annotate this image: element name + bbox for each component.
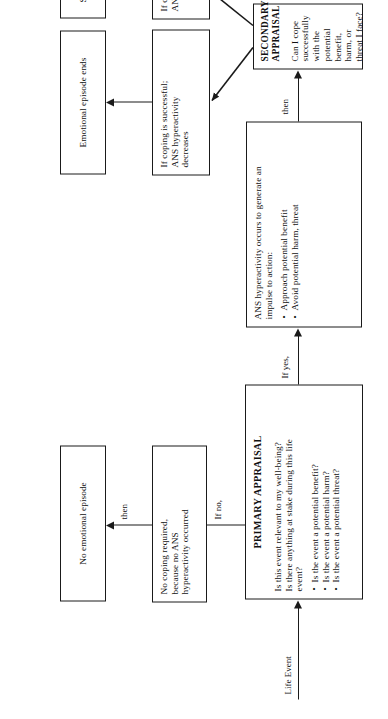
edge-label-then-2: then	[280, 98, 290, 116]
edge-label-life-event: Life Event	[283, 655, 293, 695]
edge-episode-ends-line	[113, 101, 153, 102]
edge-if-yes-arrowhead	[294, 328, 302, 336]
node-primary-appraisal[interactable]: PRIMARY APPRAISAL Is this event relevant…	[245, 384, 363, 599]
edge-coping-success-diagonal	[212, 47, 253, 100]
edge-life-event-line	[298, 607, 299, 699]
no-coping-line-3: hyperactivity occurred	[180, 453, 191, 594]
no-emotional-episode-text: No emotional episode	[67, 453, 99, 593]
coping-successful-line-2: ANS hyperactivity	[170, 37, 181, 167]
coping-successful-line-1: If coping is successful;	[159, 37, 170, 167]
edge-then-1-line	[113, 524, 152, 525]
ans-hyperactivity-bullet-1: Approach potential benefit	[279, 129, 290, 310]
primary-appraisal-title: PRIMARY APPRAISAL	[252, 392, 264, 591]
no-coping-line-2: because no ANS	[170, 453, 181, 594]
edge-label-then-1: then	[119, 503, 129, 521]
edge-if-yes-line	[298, 335, 299, 384]
edge-coping-failure-diagonal	[212, 0, 253, 25]
ans-hyperactivity-line-1: ANS hyperactivity occurs to generate an	[253, 129, 264, 319]
primary-appraisal-line-2: Is there anything at stake during this l…	[284, 392, 295, 591]
node-emotional-episode-ends[interactable]: Emotional episode ends	[60, 30, 106, 174]
ans-hyperactivity-line-2: impulse to action:	[264, 129, 275, 319]
node-no-coping-required[interactable]: No coping required, because no ANS hyper…	[152, 445, 207, 602]
coping-unsuccessful-line-2: ANS hyperactivity remains	[170, 0, 181, 11]
node-no-emotional-episode[interactable]: No emotional episode	[60, 445, 106, 601]
edge-if-no-line	[206, 524, 245, 525]
node-coping-successful[interactable]: If coping is successful; ANS hyperactivi…	[152, 29, 210, 175]
edge-label-if-yes: If yes,	[280, 355, 290, 380]
node-stress-anxiety[interactable]: Stress, Anxiety	[60, 0, 106, 18]
edge-then-1-arrowhead	[106, 522, 114, 530]
flowchart-stage: Life Event PRIMARY APPRAISAL Is this eve…	[0, 0, 388, 719]
coping-unsuccessful-line-1: If coping is unsuccessful;	[159, 0, 170, 11]
node-ans-hyperactivity[interactable]: ANS hyperactivity occurs to generate an …	[246, 121, 362, 327]
secondary-appraisal-title: SECONDARY APPRAISAL	[260, 11, 282, 61]
node-secondary-appraisal[interactable]: SECONDARY APPRAISAL Can I cope successfu…	[253, 3, 363, 69]
edge-life-event-arrowhead	[294, 600, 302, 608]
primary-appraisal-line-1: Is this event relevant to my well-being?	[273, 392, 284, 591]
ans-hyperactivity-bullets: Approach potential benefit Avoid potenti…	[279, 129, 300, 319]
primary-appraisal-bullet-1: Is the event a potential benefit?	[310, 392, 321, 582]
primary-appraisal-bullet-3: Is the event a potential threat?	[331, 392, 342, 582]
edge-then-2-arrowhead	[294, 70, 302, 78]
stress-anxiety-text: Stress, Anxiety	[67, 0, 99, 10]
edge-episode-ends-arrowhead	[106, 99, 114, 107]
ans-hyperactivity-bullet-2: Avoid potential harm, threat	[290, 129, 301, 310]
primary-appraisal-bullet-2: Is the event a potential harm?	[321, 392, 332, 582]
secondary-appraisal-line-1: Can I cope successfully with the	[290, 11, 322, 61]
edge-then-2-line	[298, 77, 299, 121]
figure-page: Life Event PRIMARY APPRAISAL Is this eve…	[0, 0, 388, 719]
primary-appraisal-bullets: Is the event a potential benefit? Is the…	[310, 392, 342, 591]
coping-successful-line-3: decreases	[180, 37, 191, 167]
emotional-episode-ends-text: Emotional episode ends	[67, 38, 99, 166]
no-coping-line-1: No coping required,	[159, 453, 170, 594]
secondary-appraisal-line-2: potential benefit, harm, or threat I fac…	[322, 11, 365, 61]
primary-appraisal-line-3: event?	[294, 392, 305, 591]
edge-label-if-no: If no,	[213, 499, 223, 521]
node-coping-unsuccessful[interactable]: If coping is unsuccessful; ANS hyperacti…	[152, 0, 210, 19]
